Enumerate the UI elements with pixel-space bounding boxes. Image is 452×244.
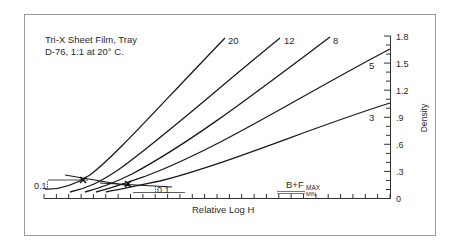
curve-5 <box>96 49 390 192</box>
curve-12 <box>70 38 280 192</box>
y-tick-label-1.5: 1.5 <box>396 59 409 69</box>
curve-label-8: 8 <box>333 35 338 46</box>
curve-label-12: 12 <box>284 35 295 46</box>
characteristic-curve-chart: Tri-X Sheet Film, Tray D-76, 1:1 at 20° … <box>0 0 452 244</box>
x-axis-label: Relative Log H <box>192 204 254 215</box>
curve-8 <box>85 37 330 192</box>
y-tick-label-0.9: .9 <box>396 113 404 123</box>
curve-label-3: 3 <box>369 112 374 123</box>
bf-min-label: MIN <box>306 191 316 197</box>
bf-label: B+F <box>286 179 304 190</box>
y-tick-label-1.8: 1.8 <box>396 32 409 42</box>
y-axis-label: Density <box>419 103 429 132</box>
y-tick-label-0.3: .3 <box>396 167 404 177</box>
left-bracket-label: 0.1 <box>34 181 47 191</box>
curve-20 <box>45 38 225 189</box>
right-bracket-label: 0.1 <box>157 185 170 195</box>
curve-label-20: 20 <box>228 35 239 46</box>
chart-title: Tri-X Sheet Film, Tray <box>45 34 137 45</box>
y-axis-ticks <box>384 36 391 199</box>
bf-max-label: MAX <box>306 184 321 191</box>
y-tick-label-0: 0 <box>396 194 401 204</box>
x-axis-ticks <box>44 194 390 199</box>
y-tick-label-0.6: .6 <box>396 140 404 150</box>
curve-3 <box>106 103 390 192</box>
chart-subtitle: D-76, 1:1 at 20° C. <box>45 46 124 57</box>
y-tick-label-1.2: 1.2 <box>396 86 409 96</box>
curve-label-5: 5 <box>369 60 374 71</box>
